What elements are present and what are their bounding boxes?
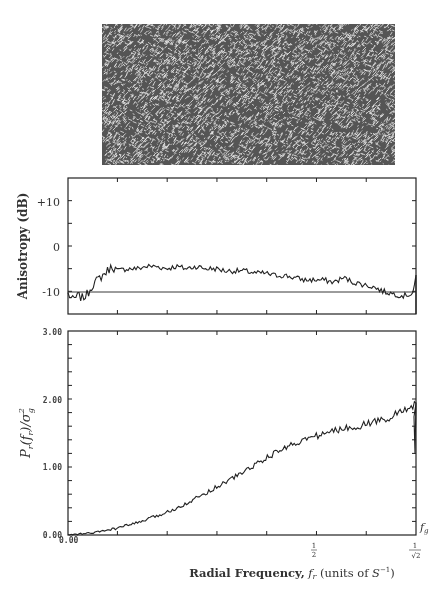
xtick-half: 1 2 [311,542,317,559]
xtick-origin: 0.00 [59,536,78,545]
svg-text:√2: √2 [412,552,421,560]
svg-text:2: 2 [312,551,316,559]
svg-text:1: 1 [413,542,417,550]
power-curve [68,402,416,535]
ytick-3: 3.00 [43,328,62,337]
power-plot: 3.00 2.00 1.00 0.00 0.00 1 2 1 √2 fg Pr(… [17,328,429,581]
ytick-plus10: +10 [37,196,60,209]
figure-plots: +10 0 -10 Anisotropy (dB) 3.00 2.00 1.00… [0,0,443,591]
fg-annotation: fg [419,521,429,535]
xtick-inv-sqrt2: 1 √2 [409,542,421,560]
anisotropy-frame [68,178,416,314]
power-ylabel: Pr(fr)/σ2g [17,408,35,459]
power-xlabel: Radial Frequency, fr (units of S−1) [189,566,395,581]
ytick-0: 0 [53,241,60,254]
anisotropy-curve [68,265,416,315]
ytick-1: 1.00 [43,463,62,472]
ytick-minus10: -10 [42,286,60,299]
ytick-2: 2.00 [43,396,62,405]
anisotropy-ticks [68,178,416,314]
power-frame [68,331,416,535]
anisotropy-ylabel: Anisotropy (dB) [16,193,30,301]
anisotropy-plot: +10 0 -10 Anisotropy (dB) [16,178,416,314]
svg-text:1: 1 [312,542,316,550]
power-ticks [68,331,416,535]
